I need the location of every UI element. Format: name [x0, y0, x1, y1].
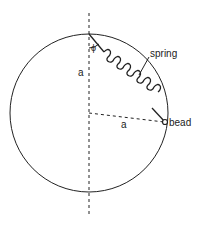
angle-phi-label: ϕ: [91, 43, 96, 53]
spring-label: spring: [150, 48, 177, 59]
bead: [163, 120, 168, 125]
radius-vertical-label: a: [78, 67, 84, 78]
bead-label: bead: [169, 117, 191, 128]
radius-horizontal-label: a: [121, 119, 127, 130]
diagram-canvas: spring bead a a ϕ: [0, 0, 202, 226]
spring-label-pointer: [139, 57, 149, 75]
